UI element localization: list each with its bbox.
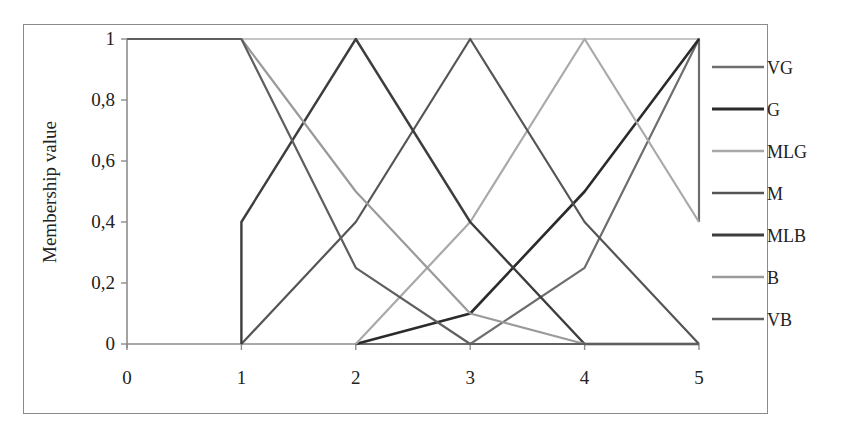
series-m [241, 39, 699, 344]
series-vg [356, 39, 699, 344]
x-tick-label: 3 [465, 367, 475, 388]
membership-chart: 00,20,40,60,81012345 VGGMLGMMLBBVB Membe… [0, 0, 849, 432]
y-tick-label: 0,8 [91, 89, 115, 110]
y-tick-label: 0,6 [91, 150, 115, 171]
legend-label-g: G [767, 100, 780, 120]
x-tick-label: 4 [580, 367, 590, 388]
x-tick-label: 5 [694, 367, 704, 388]
y-tick-label: 0,2 [91, 272, 115, 293]
series-lines [127, 39, 699, 344]
series-mlb [241, 39, 699, 344]
legend-label-vg: VG [767, 58, 793, 78]
y-axis-title: Membership value [39, 121, 60, 263]
legend-label-mlg: MLG [767, 142, 807, 162]
legend-label-mlb: MLB [767, 226, 806, 246]
legend: VGGMLGMMLBBVB [712, 58, 807, 330]
series-g [356, 39, 699, 344]
y-tick-label: 0 [106, 333, 116, 354]
legend-label-vb: VB [767, 310, 792, 330]
legend-label-b: B [767, 268, 779, 288]
x-tick-label: 2 [351, 367, 361, 388]
y-tick-label: 1 [106, 28, 116, 49]
x-tick-label: 0 [122, 367, 132, 388]
x-tick-label: 1 [237, 367, 247, 388]
y-tick-label: 0,4 [91, 211, 115, 232]
series-mlg [356, 39, 699, 344]
legend-label-m: M [767, 184, 783, 204]
